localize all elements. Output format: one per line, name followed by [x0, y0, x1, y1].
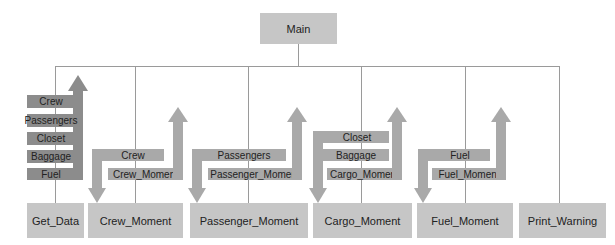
flow-label: Closet — [27, 132, 75, 145]
down-arrowhead-icon — [309, 188, 327, 203]
drop-crew-moment — [135, 66, 136, 203]
flow-label: Crew_Moment — [108, 168, 183, 180]
down-arrow-shaft — [313, 131, 323, 189]
flow-label: Crew — [92, 149, 164, 161]
flow-label: Baggage — [27, 150, 75, 163]
flow-label: Fuel — [418, 149, 490, 161]
main-module-label: Main — [287, 23, 311, 35]
down-arrowhead-icon — [88, 188, 106, 203]
down-arrow-shaft — [418, 149, 428, 189]
drop-passenger-moment — [248, 66, 249, 203]
flow-label: Fuel_Moment — [432, 168, 506, 180]
up-arrow-shaft — [173, 121, 183, 180]
drop-print-warning — [559, 66, 560, 203]
flow-label: Cargo_Moment — [327, 168, 402, 180]
root-connector — [298, 44, 299, 66]
flow-label: Passengers — [27, 114, 75, 127]
bus-line — [55, 66, 560, 67]
module-crew-moment: Crew_Moment — [88, 203, 183, 238]
drop-fuel-moment — [465, 66, 466, 203]
module-cargo-moment: Cargo_Moment — [313, 203, 412, 238]
up-arrowhead-icon — [491, 107, 511, 122]
main-module: Main — [260, 13, 337, 44]
up-arrowhead-icon — [387, 107, 407, 122]
down-arrow-shaft — [92, 149, 102, 189]
flow-label: Baggage — [323, 149, 389, 161]
flow-label: Closet — [313, 131, 389, 143]
up-arrow-shaft — [496, 121, 506, 180]
up-arrowhead-icon — [68, 75, 88, 91]
up-arrowhead-icon — [287, 107, 307, 122]
module-get-data: Get_Data — [27, 203, 84, 238]
flow-label: Fuel — [27, 168, 75, 180]
flow-label: Crew — [27, 95, 75, 108]
down-arrow-shaft — [192, 149, 202, 189]
down-arrowhead-icon — [414, 188, 432, 203]
module-print-warning: Print_Warning — [519, 203, 606, 238]
up-arrowhead-icon — [168, 107, 188, 122]
module-passenger-moment: Passenger_Moment — [190, 203, 308, 238]
down-arrowhead-icon — [188, 188, 206, 203]
flow-label: Passengers — [192, 149, 286, 161]
module-fuel-moment: Fuel_Moment — [417, 203, 513, 238]
flow-label: Passenger_Moment — [208, 168, 302, 180]
up-arrow-shaft — [392, 121, 402, 180]
up-arrow-shaft — [292, 121, 302, 180]
